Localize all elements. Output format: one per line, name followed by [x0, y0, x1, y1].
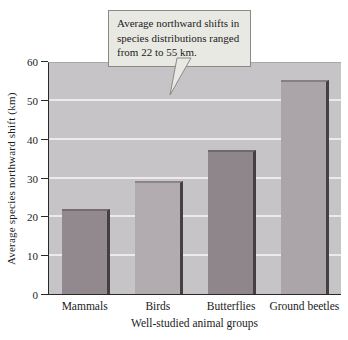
y-tick-mark-40: [41, 139, 48, 140]
y-tick-mark-10: [41, 255, 48, 256]
y-tick-label-50: 50: [8, 95, 38, 107]
y-tick-label-30: 30: [8, 173, 38, 185]
y-tick-mark-20: [41, 216, 48, 217]
x-axis-title: Well-studied animal groups: [48, 317, 341, 329]
bar-mammals: [62, 209, 110, 294]
bar-birds: [135, 181, 183, 294]
y-tick-mark-60: [41, 61, 48, 62]
y-tick-label-20: 20: [8, 211, 38, 223]
bar-ground-beetles: [281, 80, 329, 294]
bar-chart-figure: Average northward shifts in species dist…: [0, 0, 348, 340]
x-category-label-ground-beetles: Ground beetles: [259, 300, 348, 312]
y-tick-mark-0: [41, 294, 48, 295]
y-tick-mark-30: [41, 178, 48, 179]
y-tick-mark-50: [41, 100, 48, 101]
y-tick-label-10: 10: [8, 250, 38, 262]
bar-butterflies: [208, 150, 256, 294]
callout-tail-pointer: [150, 57, 200, 101]
y-tick-label-40: 40: [8, 134, 38, 146]
y-tick-label-60: 60: [8, 56, 38, 68]
y-tick-label-0: 0: [8, 289, 38, 301]
